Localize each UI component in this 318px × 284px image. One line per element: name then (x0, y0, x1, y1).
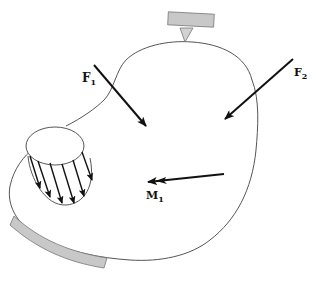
load-arrow-4 (62, 164, 74, 203)
load-arrow-3 (50, 163, 62, 203)
force-f2-arrow (225, 59, 293, 119)
top-support-pin (180, 28, 193, 42)
mechanics-diagram: F1 F2 M1 (0, 0, 318, 284)
bottom-support (10, 216, 107, 268)
force-f1-label: F1 (82, 71, 96, 87)
force-f1-arrow (94, 65, 146, 126)
load-arrow-2 (38, 161, 50, 197)
top-support-block (168, 12, 215, 27)
load-arrow-5 (73, 160, 84, 196)
cylinder-top (26, 127, 84, 165)
load-arrow-6 (82, 152, 92, 180)
top-support (168, 12, 215, 42)
diagram-svg: F1 F2 M1 (0, 0, 318, 284)
distributed-load (26, 127, 92, 205)
moment-m1-label: M1 (146, 189, 164, 204)
force-f2-label: F2 (294, 66, 307, 81)
moment-m1 (148, 174, 224, 184)
